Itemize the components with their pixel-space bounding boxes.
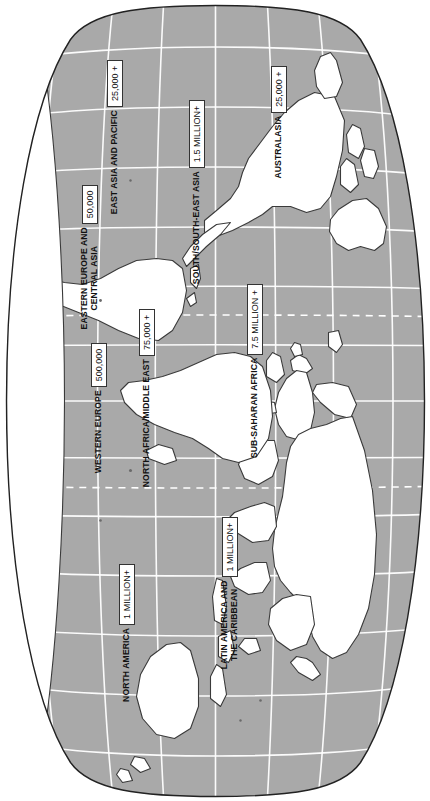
region-value-australasia: 25,000 +	[271, 66, 287, 113]
map-page: EAST ASIA AND PACIFIC 25,000 + AUSTRALAS…	[0, 0, 430, 801]
region-name-line2-latin: THE CARIBBEAN	[229, 589, 239, 661]
region-label-sub-saharan-africa[interactable]: SUB-SAHARAN AFRICA 7.5 MILLION +	[179, 341, 329, 401]
region-value-sub-saharan-africa: 7.5 MILLION +	[247, 284, 263, 355]
region-name-eastern-europe: EASTERN EUROPE AND CENTRAL ASIA	[79, 227, 99, 329]
region-label-australasia[interactable]: AUSTRALASIA 25,000 +	[218, 92, 338, 152]
region-label-latin-america[interactable]: LATIN AMERICA AND THE CARIBBEAN 1 MILLIO…	[164, 560, 294, 626]
region-value-east-asia-pacific: 25,000 +	[107, 60, 123, 107]
region-name-north-africa: NORTH AFRICA/MIDDLE EAST	[141, 359, 151, 487]
region-name-line1: EASTERN EUROPE AND	[79, 227, 89, 329]
region-name-south-south-east-asia: SOUTH/SOUTH-EAST ASIA	[191, 171, 201, 284]
region-label-eastern-europe[interactable]: EASTERN EUROPE AND CENTRAL ASIA 50,000	[24, 224, 154, 290]
region-name-line2: CENTRAL ASIA	[89, 246, 99, 311]
region-label-south-south-east-asia[interactable]: SOUTH/SOUTH-EAST ASIA 1.5 MILLION+	[116, 162, 276, 222]
region-name-latin-america: LATIN AMERICA AND THE CARIBBEAN	[219, 580, 239, 669]
region-value-north-america: 1 MILLION+	[119, 564, 135, 625]
region-value-eastern-europe: 50,000	[82, 185, 98, 225]
region-value-north-africa: 75,000 +	[139, 309, 155, 356]
region-value-south-south-east-asia: 1.5 MILLION+	[189, 100, 205, 168]
region-name-line1-latin: LATIN AMERICA AND	[219, 580, 229, 669]
region-value-latin-america: 1 MILLION+	[222, 517, 238, 578]
region-name-north-america: NORTH AMERICA	[121, 628, 131, 702]
region-name-sub-saharan-africa: SUB-SAHARAN AFRICA	[249, 358, 259, 458]
